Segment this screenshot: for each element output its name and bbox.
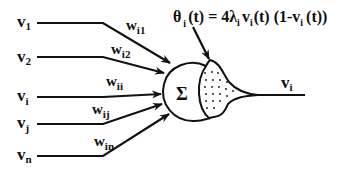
- weight-label-i2: wi2: [111, 41, 131, 60]
- input-label-2: v2: [17, 47, 32, 67]
- weight-label-ii: wii: [106, 73, 123, 92]
- input-wire-2: [37, 57, 164, 73]
- neuron-diagram: Σ v1 v2 vi vj vn wi1 wi2 wii wij win vi …: [0, 0, 341, 174]
- threshold-equation: θi(t) = 4λivi(t) (1-vi(t)): [173, 8, 327, 29]
- input-label-i: vi: [17, 86, 29, 107]
- output-label: vi: [281, 73, 293, 93]
- input-wire-i: [37, 94, 161, 97]
- weight-label-in: win: [94, 133, 114, 152]
- summation-symbol: Σ: [176, 84, 188, 104]
- input-label-j: vj: [17, 113, 29, 134]
- input-label-n: vn: [17, 145, 32, 165]
- weight-label-ij: wij: [92, 101, 110, 120]
- input-label-1: v1: [17, 12, 31, 32]
- threshold-arrow: [193, 27, 209, 59]
- weight-label-i1: wi1: [126, 17, 145, 36]
